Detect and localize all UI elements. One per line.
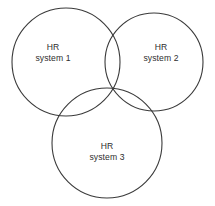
venn-label-line2: system 2 bbox=[143, 53, 178, 64]
venn-label-hr-system-3: HR system 3 bbox=[89, 141, 124, 163]
venn-label-line1: HR bbox=[89, 141, 124, 152]
venn-circles-graphic bbox=[0, 0, 215, 206]
venn-label-line2: system 1 bbox=[35, 53, 70, 64]
venn-label-line2: system 3 bbox=[89, 152, 124, 163]
venn-label-line1: HR bbox=[143, 42, 178, 53]
venn-label-hr-system-1: HR system 1 bbox=[35, 42, 70, 64]
venn-label-line1: HR bbox=[35, 42, 70, 53]
venn-diagram: HR system 1 HR system 2 HR system 3 bbox=[0, 0, 215, 206]
venn-label-hr-system-2: HR system 2 bbox=[143, 42, 178, 64]
